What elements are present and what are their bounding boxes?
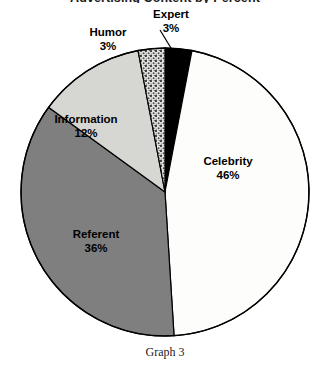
slice-label-celebrity-name: Celebrity (203, 155, 252, 167)
figure-caption: Graph 3 (0, 345, 330, 360)
slice-label-information: Information 12% (32, 113, 140, 140)
slice-label-referent-percent: 36% (50, 242, 142, 256)
slice-label-celebrity: Celebrity 46% (186, 155, 270, 182)
slice-label-humor-percent: 3% (78, 40, 138, 54)
slice-label-expert-percent: 3% (140, 22, 202, 36)
slice-label-humor: Humor 3% (78, 26, 138, 53)
pie-slice-celebrity (165, 51, 309, 336)
pie-chart-figure: Advertising Content by Percent Expert 3% (0, 0, 330, 372)
slice-label-information-name: Information (54, 113, 117, 125)
pie-chart-canvas (0, 0, 330, 372)
slice-label-referent-name: Referent (73, 228, 120, 240)
slice-label-information-percent: 12% (32, 127, 140, 141)
slice-label-expert-name: Expert (153, 8, 189, 20)
slice-label-celebrity-percent: 46% (186, 169, 270, 183)
pie-svg (0, 0, 330, 372)
slice-label-expert: Expert 3% (140, 8, 202, 35)
slice-label-humor-name: Humor (89, 26, 126, 38)
slice-label-referent: Referent 36% (50, 228, 142, 255)
pie-slices (21, 48, 309, 336)
